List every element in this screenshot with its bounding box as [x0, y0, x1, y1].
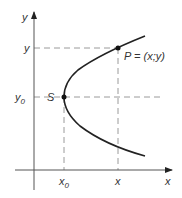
- x0-tick-label: x0: [58, 175, 70, 190]
- vertex-label: S: [47, 91, 55, 103]
- guide-lines: [34, 48, 162, 170]
- point-p-label: P = (x;y): [124, 50, 165, 62]
- point-p: [116, 46, 121, 51]
- y-axis-label: y: [21, 11, 29, 23]
- y0-tick-label: y0: [14, 91, 26, 106]
- x-axis-label: x: [164, 175, 171, 187]
- x-tick-label: x: [114, 175, 121, 187]
- parabola-diagram: y x y y0 S x0 x P = (x;y): [0, 0, 182, 198]
- vertex-point: [62, 95, 67, 100]
- y-tick-label: y: [23, 42, 31, 54]
